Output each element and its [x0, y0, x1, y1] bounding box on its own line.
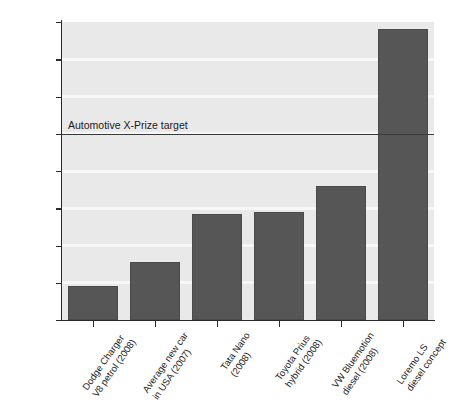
y-axis-tick — [56, 320, 62, 321]
bar — [192, 214, 243, 320]
plot-area: Automotive X-Prize target — [62, 22, 434, 320]
x-axis-tick — [93, 321, 94, 327]
x-axis-tick — [155, 321, 156, 327]
bar — [254, 212, 305, 320]
x-axis-tick — [217, 321, 218, 327]
x-axis-category-label: Dodge ChargerV8 petrol (2008) — [80, 330, 138, 399]
bar — [378, 29, 429, 320]
y-axis-tick — [56, 171, 62, 172]
x-axis-line — [61, 320, 435, 321]
y-axis-tick — [56, 59, 62, 60]
x-axis-tick — [341, 321, 342, 327]
x-axis-category-label: Tata Nano(2008) — [218, 330, 262, 379]
automotive-x-prize-target-line — [62, 134, 434, 135]
automotive-x-prize-target-label: Automotive X-Prize target — [68, 119, 188, 134]
bar-chart: Miles per gallon Automotive X-Prize targ… — [0, 0, 458, 412]
x-axis-category-label: Average new carin USA (2007) — [140, 330, 200, 401]
bar — [130, 262, 181, 320]
y-axis-tick — [56, 246, 62, 247]
x-axis-category-label: Loremo LSdiesel concept — [394, 330, 448, 393]
x-axis-category-label: VW Bluemotiondiesel (2008) — [329, 330, 385, 397]
x-axis-category-label: Toyota Priushybrid (2008) — [273, 330, 324, 389]
bar — [316, 186, 367, 320]
x-axis-tick — [403, 321, 404, 327]
bar — [68, 286, 119, 320]
y-axis-tick — [56, 97, 62, 98]
x-axis-tick — [279, 321, 280, 327]
y-axis-tick — [56, 22, 62, 23]
y-axis-tick — [56, 283, 62, 284]
y-axis-tick — [56, 208, 62, 209]
